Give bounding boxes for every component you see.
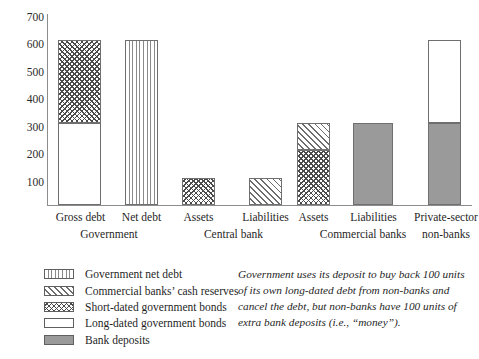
legend-swatch-white-fill-icon: [44, 318, 74, 328]
legend-item-commercial-banks-cash-reserves: Commercial banks’ cash reserves: [44, 282, 244, 298]
legend-swatch-gray-fill-icon: [44, 335, 74, 345]
y-tick-100: 100: [4, 177, 44, 189]
legend-item-long-dated-government-bonds: Long-dated government bonds: [44, 315, 244, 331]
y-tick-600: 600: [4, 39, 44, 51]
y-tick-300: 300: [4, 122, 44, 134]
chart-annotation-note: Government uses its deposit to buy back …: [238, 266, 476, 330]
segment-short-dated-government-bonds: [182, 178, 215, 205]
segment-commercial-banks-cash-reserves: [249, 178, 282, 205]
segment-long-dated-government-bonds: [428, 40, 461, 122]
legend-label: Short-dated government bonds: [85, 301, 227, 313]
legend-label: Commercial banks’ cash reserves: [85, 285, 238, 297]
segment-commercial-banks-cash-reserves: [297, 123, 330, 150]
category-label-private-sector: Private-sector: [396, 211, 479, 224]
bar-central-bank-assets[interactable]: [182, 178, 215, 205]
bar-government-net-debt[interactable]: [125, 40, 158, 205]
group-label-non-banks: non-banks: [396, 228, 479, 241]
y-tick-500: 500: [4, 67, 44, 79]
chart-figure: 700 600 500 400 300 200 100: [0, 0, 479, 359]
category-label-central-bank-assets: Assets: [165, 211, 232, 224]
legend-label: Long-dated government bonds: [85, 317, 226, 329]
legend-label: Bank deposits: [85, 334, 150, 346]
bars-container: [47, 0, 472, 206]
bar-commercial-banks-liabilities[interactable]: [353, 123, 393, 205]
legend-item-bank-deposits: Bank deposits: [44, 332, 244, 348]
legend-swatch-vertical-stripes-icon: [44, 269, 74, 279]
legend-item-short-dated-government-bonds: Short-dated government bonds: [44, 299, 244, 315]
y-axis-tick-labels: 700 600 500 400 300 200 100: [0, 0, 44, 250]
y-tick-400: 400: [4, 94, 44, 106]
bar-private-sector-non-banks[interactable]: [428, 40, 461, 205]
bar-central-bank-liabilities[interactable]: [249, 178, 282, 205]
plot-area: 700 600 500 400 300 200 100: [0, 0, 479, 250]
legend-item-government-net-debt: Government net debt: [44, 266, 244, 282]
bar-commercial-banks-assets[interactable]: [297, 123, 330, 205]
segment-short-dated-government-bonds: [297, 150, 330, 205]
segment-government-net-debt: [125, 40, 158, 205]
y-tick-700: 700: [4, 12, 44, 24]
group-label-government: Government: [59, 228, 159, 241]
legend: Government net debt Commercial banks’ ca…: [44, 266, 244, 348]
legend-label: Government net debt: [85, 268, 182, 280]
segment-short-dated-government-bonds: [58, 40, 101, 122]
y-tick-200: 200: [4, 149, 44, 161]
x-axis-category-labels: Gross debt Net debt Assets Liabilities A…: [47, 207, 472, 251]
segment-long-dated-government-bonds: [58, 123, 101, 205]
legend-swatch-cross-hatch-icon: [44, 302, 74, 312]
legend-swatch-diagonal-hatch-icon: [44, 286, 74, 296]
bar-government-gross-debt[interactable]: [58, 40, 101, 205]
segment-bank-deposits: [353, 123, 393, 205]
segment-bank-deposits: [428, 123, 461, 205]
group-label-central-bank: Central bank: [181, 228, 286, 241]
